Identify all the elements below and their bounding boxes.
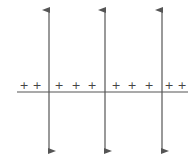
plus-charge-icon: + [111,79,120,92]
charge-field-diagram: ++++++++++ [0,0,196,160]
plus-charge-icon: + [87,79,96,92]
plus-charge-icon: + [54,79,63,92]
plus-charge-icon: + [127,79,136,92]
plus-charge-icon: + [71,79,80,92]
plus-charge-icon: + [177,79,186,92]
plus-charge-icon: + [19,79,28,92]
plus-charge-icon: + [144,79,153,92]
plus-charge-icon: + [32,79,41,92]
plus-charge-icon: + [164,79,173,92]
